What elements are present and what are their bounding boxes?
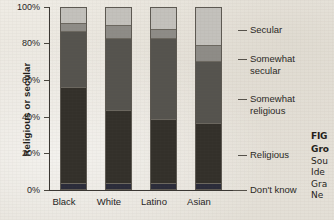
- x-tick-asian: Asian: [176, 196, 222, 207]
- segment-secular: [196, 8, 221, 46]
- segment-somewhat-religious: [151, 39, 176, 120]
- figure-caption-cropped: FIG Gro Sou Ide Gra Ne: [311, 131, 334, 200]
- segment-dont-know: [106, 184, 131, 189]
- caption-subtitle: Gro: [311, 144, 334, 154]
- caption-line-4: Ne: [311, 190, 334, 200]
- y-tick-0: 0%: [10, 185, 40, 195]
- caption-fig-label: FIG: [311, 131, 334, 141]
- segment-somewhat-religious: [106, 39, 131, 111]
- segment-somewhat-religious: [61, 32, 86, 88]
- segment-religious: [61, 88, 86, 184]
- legend-label-somewhat-religious: Somewhat religious: [250, 93, 295, 116]
- leader-somewhat-religious: [238, 99, 247, 100]
- bar-black[interactable]: [60, 7, 87, 190]
- segment-dont-know: [151, 184, 176, 189]
- plot-area: [50, 7, 236, 190]
- legend-label-somewhat-secular: Somewhat secular: [250, 53, 295, 76]
- segment-religious: [106, 111, 131, 183]
- leader-religious: [238, 155, 247, 156]
- segment-secular: [106, 8, 131, 26]
- segment-dont-know: [196, 184, 221, 189]
- legend-label-dont-know: Don't know: [250, 184, 297, 196]
- leader-somewhat-secular: [238, 59, 247, 60]
- legend-label-religious: Religious: [250, 149, 289, 161]
- caption-line-1: Sou: [311, 156, 334, 166]
- y-axis-tick-labels: 100% 80% 60% 40% 20% 0%: [8, 0, 40, 220]
- leader-dont-know: [233, 190, 247, 191]
- y-tick-100: 100%: [10, 2, 40, 12]
- y-tick-60: 60%: [10, 75, 40, 85]
- bar-latino[interactable]: [150, 7, 177, 190]
- bar-white[interactable]: [105, 7, 132, 190]
- caption-line-3: Gra: [311, 179, 334, 189]
- bar-asian[interactable]: [195, 7, 222, 190]
- segment-religious: [151, 120, 176, 183]
- caption-line-2: Ide: [311, 167, 334, 177]
- y-tick-40: 40%: [10, 112, 40, 122]
- legend-label-secular: Secular: [250, 24, 282, 36]
- segment-dont-know: [61, 184, 86, 189]
- x-tick-latino: Latino: [131, 196, 177, 207]
- segment-secular: [61, 8, 86, 24]
- segment-somewhat-secular: [106, 26, 131, 39]
- segment-somewhat-secular: [151, 30, 176, 39]
- y-tick-80: 80%: [10, 38, 40, 48]
- x-tick-white: White: [86, 196, 132, 207]
- x-tick-black: Black: [41, 196, 87, 207]
- stacked-bar-chart: Religious or secular 100% 80% 60% 40% 20…: [0, 0, 334, 220]
- segment-secular: [151, 8, 176, 30]
- segment-somewhat-secular: [196, 46, 221, 62]
- segment-somewhat-religious: [196, 62, 221, 124]
- y-tick-20: 20%: [10, 148, 40, 158]
- x-axis-line: [49, 190, 235, 191]
- leader-secular: [238, 30, 247, 31]
- segment-religious: [196, 124, 221, 184]
- segment-somewhat-secular: [61, 24, 86, 31]
